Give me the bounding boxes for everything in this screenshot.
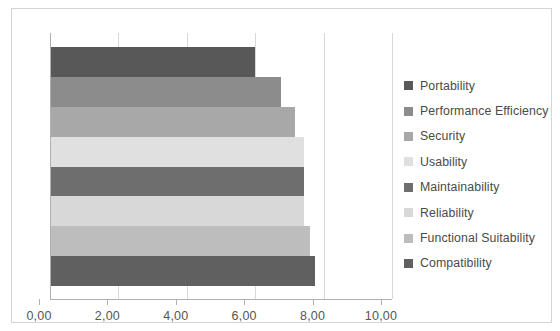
axis-tick bbox=[313, 299, 314, 305]
legend-swatch-icon bbox=[404, 132, 413, 141]
legend-item-label: Security bbox=[420, 129, 465, 143]
legend-item-functional-suitability[interactable]: Functional Suitability bbox=[404, 225, 560, 250]
bar-maintainability[interactable] bbox=[50, 167, 304, 197]
legend-item-label: Functional Suitability bbox=[420, 231, 535, 245]
legend-swatch-icon bbox=[404, 81, 413, 90]
plot-area bbox=[50, 33, 392, 299]
category-axis-line bbox=[50, 33, 51, 299]
axis-tick-label: 10,00 bbox=[365, 309, 397, 323]
legend-item-portability[interactable]: Portability bbox=[404, 73, 560, 98]
legend-swatch-icon bbox=[404, 259, 413, 268]
bars-layer bbox=[50, 47, 392, 286]
legend-swatch-icon bbox=[404, 107, 413, 116]
axis-tick bbox=[107, 299, 108, 305]
axis-tick bbox=[176, 299, 177, 305]
axis-tick-label: 0,00 bbox=[26, 309, 51, 323]
axis-tick bbox=[244, 299, 245, 305]
bar-portability[interactable] bbox=[50, 47, 255, 77]
axis-tick bbox=[39, 299, 40, 305]
chart-frame: 0,002,004,006,008,0010,00 PortabilityPer… bbox=[11, 8, 552, 323]
bar-usability[interactable] bbox=[50, 137, 304, 167]
axis-tick bbox=[381, 299, 382, 305]
bar-security[interactable] bbox=[50, 107, 295, 137]
bar-reliability[interactable] bbox=[50, 196, 304, 226]
legend-item-label: Reliability bbox=[420, 206, 474, 220]
bar-performance-efficiency[interactable] bbox=[50, 77, 281, 107]
legend-swatch-icon bbox=[404, 157, 413, 166]
bar-row bbox=[50, 196, 392, 226]
bar-row bbox=[50, 167, 392, 197]
legend-item-label: Portability bbox=[420, 79, 475, 93]
legend-item-label: Usability bbox=[420, 155, 467, 169]
bar-functional-suitability[interactable] bbox=[50, 226, 310, 256]
bar-row bbox=[50, 137, 392, 167]
axis-tick-labels: 0,002,004,006,008,0010,00 bbox=[12, 309, 560, 331]
bar-row bbox=[50, 47, 392, 77]
bar-row bbox=[50, 77, 392, 107]
legend-item-security[interactable]: Security bbox=[404, 124, 560, 149]
axis-tick-label: 6,00 bbox=[232, 309, 257, 323]
value-axis-line bbox=[50, 299, 392, 300]
legend-item-reliability[interactable]: Reliability bbox=[404, 200, 560, 225]
bar-chart: 0,002,004,006,008,0010,00 PortabilityPer… bbox=[0, 0, 560, 331]
legend-item-label: Compatibility bbox=[420, 256, 492, 270]
legend-item-label: Performance Efficiency bbox=[420, 104, 548, 118]
axis-tick-label: 8,00 bbox=[300, 309, 325, 323]
bar-row bbox=[50, 107, 392, 137]
bar-compatibility[interactable] bbox=[50, 256, 315, 286]
legend-item-maintainability[interactable]: Maintainability bbox=[404, 175, 560, 200]
bar-row bbox=[50, 256, 392, 286]
legend-item-usability[interactable]: Usability bbox=[404, 149, 560, 174]
legend-item-compatibility[interactable]: Compatibility bbox=[404, 251, 560, 276]
legend-item-performance-efficiency[interactable]: Performance Efficiency bbox=[404, 98, 560, 123]
axis-tick-label: 4,00 bbox=[163, 309, 188, 323]
gridline bbox=[392, 33, 393, 299]
axis-tick-label: 2,00 bbox=[95, 309, 120, 323]
legend-swatch-icon bbox=[404, 234, 413, 243]
legend-item-label: Maintainability bbox=[420, 180, 499, 194]
bar-row bbox=[50, 226, 392, 256]
legend-swatch-icon bbox=[404, 208, 413, 217]
legend-swatch-icon bbox=[404, 183, 413, 192]
chart-legend: PortabilityPerformance EfficiencySecurit… bbox=[404, 73, 560, 276]
